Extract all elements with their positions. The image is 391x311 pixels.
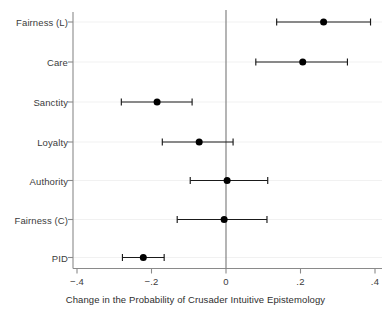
y-axis-category-label: Fairness (L) — [16, 17, 68, 28]
point-estimate-marker — [221, 216, 228, 223]
point-estimate-marker — [140, 254, 147, 261]
point-estimate-marker — [154, 99, 161, 106]
point-estimate-marker — [224, 177, 231, 184]
x-axis-title: Change in the Probability of Crusader In… — [0, 294, 391, 305]
point-estimate-marker — [320, 19, 327, 26]
y-axis-category-label: Fairness (C) — [15, 214, 68, 225]
y-axis-category-labels: Fairness (L)CareSanctityLoyaltyAuthority… — [0, 0, 68, 311]
x-axis-tick-label: −.4 — [70, 276, 84, 287]
point-estimate-marker — [299, 59, 306, 66]
y-axis-category-label: PID — [52, 252, 68, 263]
y-axis-category-label: Sanctity — [33, 97, 68, 108]
x-axis-tick-label: 0 — [223, 276, 228, 287]
x-axis-tick-label: −.2 — [144, 276, 158, 287]
point-estimate-marker — [196, 139, 203, 146]
y-axis-category-label: Authority — [30, 175, 68, 186]
x-axis-tick-label: .4 — [371, 276, 379, 287]
y-axis-category-label: Loyalty — [37, 137, 68, 148]
forest-plot-chart: Fairness (L)CareSanctityLoyaltyAuthority… — [0, 0, 391, 311]
x-axis-tick-label: .2 — [296, 276, 304, 287]
y-axis-category-label: Care — [47, 57, 68, 68]
